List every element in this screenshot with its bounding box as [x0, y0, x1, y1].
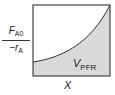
shaded-area	[33, 5, 110, 76]
area-label-vpfr: VPFR	[73, 57, 96, 72]
area-label-subscript: PFR	[80, 63, 96, 72]
x-axis-label: X	[64, 79, 71, 91]
levenspiel-plot	[0, 0, 115, 95]
